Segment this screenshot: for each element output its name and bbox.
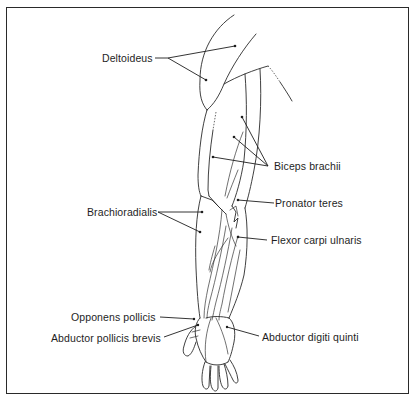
- label-abductor-pollicis-brevis: Abductor pollicis brevis: [51, 332, 161, 344]
- upper-arm-outline: [198, 69, 261, 208]
- label-opponens-pollicis: Opponens pollicis: [71, 311, 156, 323]
- label-brachioradialis: Brachioradialis: [87, 206, 157, 218]
- label-abductor-digiti-quinti: Abductor digiti quinti: [262, 331, 359, 343]
- label-flexor-carpi-ulnaris: Flexor carpi ulnaris: [271, 234, 362, 246]
- forearm-outline: [196, 196, 247, 320]
- label-pronator-teres: Pronator teres: [275, 197, 343, 209]
- label-biceps-brachii: Biceps brachii: [274, 160, 341, 172]
- leader-lines: [155, 45, 274, 337]
- label-deltoideus: Deltoideus: [102, 52, 153, 64]
